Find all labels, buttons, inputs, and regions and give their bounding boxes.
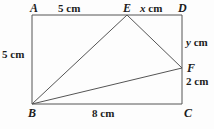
measure-label-DF: y cm	[186, 37, 208, 48]
vertex-label-F: F	[187, 62, 195, 74]
segment-BE	[32, 15, 127, 104]
vertex-label-D: D	[178, 2, 187, 14]
vertex-label-C: C	[184, 107, 192, 119]
segment-EF	[127, 15, 182, 68]
measure-label-ED: x cm	[140, 3, 162, 14]
geometry-diagram: A D E F C B 5 cm x cm y cm 2 cm 5 cm 8 c…	[0, 0, 214, 129]
segment-BF	[32, 68, 182, 104]
vertex-label-A: A	[30, 2, 38, 14]
measure-label-FC: 2 cm	[186, 76, 208, 87]
vertex-label-E: E	[123, 2, 131, 14]
measure-label-BC: 8 cm	[92, 108, 114, 119]
vertex-label-B: B	[28, 107, 36, 119]
measure-label-AB: 5 cm	[2, 49, 24, 60]
measure-label-AE: 5 cm	[58, 3, 80, 14]
